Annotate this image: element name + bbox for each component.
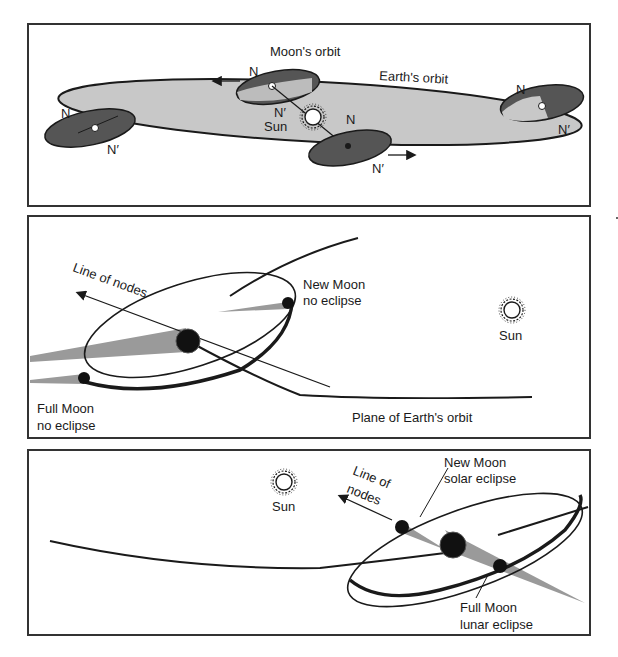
label-full-moon-status-middle: no eclipse	[37, 418, 96, 433]
full-moon-middle	[78, 372, 90, 384]
label-node-nprime-upper: N′	[274, 105, 286, 120]
panel-middle: Line of nodes New Moon no eclipse Full M…	[28, 216, 590, 438]
eclipse-diagram: Moon's orbit Earth's orbit Sun N N′ N N′…	[0, 0, 618, 657]
label-plane-earth-orbit: Plane of Earth's orbit	[352, 410, 473, 425]
label-new-moon-status-middle: no eclipse	[303, 293, 362, 308]
label-node-nprime-left: N′	[107, 142, 119, 157]
earth-bottom	[440, 532, 466, 558]
new-moon-bottom	[395, 520, 409, 534]
panel-bottom: Sun Line of nodes New Moon solar eclipse…	[28, 450, 595, 635]
panel-top: Moon's orbit Earth's orbit Sun N N′ N N′…	[28, 24, 590, 206]
label-node-nprime-lower: N′	[372, 161, 384, 176]
label-sun-middle: Sun	[499, 328, 522, 343]
label-full-moon-status-bottom: lunar eclipse	[460, 617, 533, 632]
label-moons-orbit: Moon's orbit	[270, 44, 341, 59]
label-new-moon-middle: New Moon	[303, 277, 365, 292]
label-node-nprime-right: N′	[558, 122, 570, 137]
label-node-n-lower: N	[346, 112, 355, 127]
label-new-moon-status-bottom: solar eclipse	[444, 471, 516, 486]
label-node-n-right: N	[516, 82, 525, 97]
label-node-n-left: N	[61, 106, 70, 121]
label-full-moon-middle: Full Moon	[37, 401, 94, 416]
earth-middle	[176, 329, 200, 353]
label-new-moon-bottom: New Moon	[444, 455, 506, 470]
full-moon-bottom	[493, 559, 507, 573]
label-full-moon-bottom: Full Moon	[460, 600, 517, 615]
label-node-n-upper: N	[249, 64, 258, 79]
label-sun-top: Sun	[264, 119, 287, 134]
label-sun-bottom: Sun	[272, 499, 295, 514]
new-moon-middle	[282, 297, 294, 309]
